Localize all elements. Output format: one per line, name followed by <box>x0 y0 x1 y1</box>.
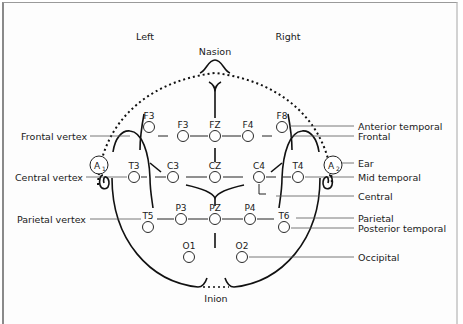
electrode-f4 <box>243 131 254 142</box>
label-occipital: Occipital <box>358 252 399 263</box>
a1-label: A <box>94 161 101 171</box>
electrode-o1 <box>184 252 195 263</box>
midline-fork-top <box>209 82 221 92</box>
electrode-f8 <box>277 122 288 133</box>
electrode-o2-label: O2 <box>236 241 249 251</box>
head-outline-right <box>225 178 320 287</box>
electrode-t3-label: T3 <box>127 161 139 171</box>
electrode-f8-label: F8 <box>277 111 288 121</box>
label-parietal-vertex: Parietal vertex <box>17 214 86 225</box>
nose-outline <box>200 60 230 73</box>
electrode-t4 <box>293 172 304 183</box>
ear-right: A 2 <box>323 156 342 189</box>
electrode-t5-label: T5 <box>141 211 153 221</box>
midline-fork-central <box>186 185 244 198</box>
electrode-f4-label: F4 <box>243 120 254 130</box>
right-leader-lines <box>249 126 354 257</box>
a2-sub: 2 <box>336 165 340 172</box>
electrode-fz-label: FZ <box>209 120 220 130</box>
electrode-t3 <box>129 172 140 183</box>
label-mid-temporal: Mid temporal <box>358 172 421 183</box>
label-ear: Ear <box>358 158 374 169</box>
electrode-f7 <box>144 122 155 133</box>
label-central-vertex: Central vertex <box>15 172 83 183</box>
curve-right-short <box>271 163 282 172</box>
electrode-c4 <box>254 172 265 183</box>
ear-left-shape <box>100 175 109 189</box>
electrode-c4-label: C4 <box>253 161 265 171</box>
right-side-label: Right <box>275 31 300 42</box>
electrode-o1-label: O1 <box>183 241 196 251</box>
electrode-t4-label: T4 <box>291 161 303 171</box>
electrode-f3 <box>178 131 189 142</box>
electrode-pz-label: PZ <box>209 203 221 213</box>
a2-label: A <box>328 161 335 171</box>
a1-sub: 1 <box>102 165 106 172</box>
electrode-t5 <box>143 222 154 233</box>
nasion-label: Nasion <box>199 46 231 57</box>
electrode-p3 <box>176 214 187 225</box>
label-frontal: Frontal <box>358 131 391 142</box>
ear-left: A 1 <box>90 156 109 189</box>
curve-left-short <box>150 163 161 172</box>
electrode-pz <box>210 214 221 225</box>
electrode-cz-label: CZ <box>209 161 221 171</box>
electrode-c3 <box>168 172 179 183</box>
label-frontal-vertex: Frontal vertex <box>21 131 87 142</box>
head-outline-left <box>112 178 207 287</box>
electrode-cz <box>210 172 221 183</box>
electrode-fz <box>210 131 221 142</box>
electrode-p3-label: P3 <box>175 203 186 213</box>
label-central: Central <box>358 191 393 202</box>
electrode-f3-label: F3 <box>178 120 189 130</box>
electrode-c3-label: C3 <box>167 161 179 171</box>
left-side-label: Left <box>136 31 154 42</box>
electrode-f7-label: F3 <box>144 111 155 121</box>
electrode-o2 <box>237 252 248 263</box>
inion-label: Inion <box>204 293 227 304</box>
electrode-p4 <box>245 214 256 225</box>
label-posterior-temporal: Posterior temporal <box>358 223 446 234</box>
electrode-t6-label: T6 <box>277 211 289 221</box>
electrode-p4-label: P4 <box>244 203 255 213</box>
electrode-t6 <box>279 222 290 233</box>
